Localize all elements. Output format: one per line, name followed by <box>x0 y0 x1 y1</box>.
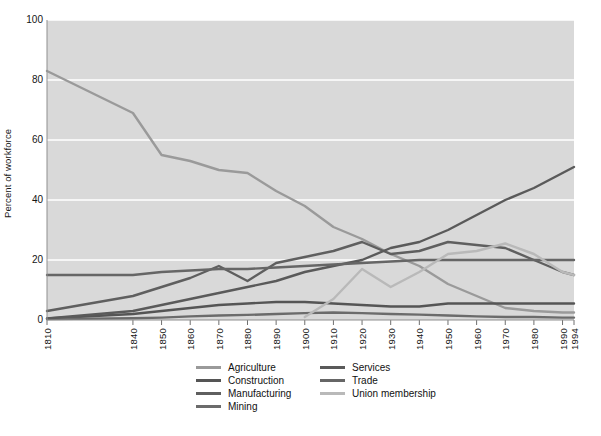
x-tick-label: 1980 <box>529 328 540 350</box>
chart-legend: AgricultureConstructionManufacturingMini… <box>196 361 516 423</box>
legend-column-right: ServicesTradeUnion membership <box>320 361 436 400</box>
legend-label: Services <box>352 361 390 374</box>
legend-item[interactable]: Trade <box>320 374 436 387</box>
legend-swatch-line-icon <box>196 405 221 408</box>
x-tick-label: 1810 <box>42 328 53 350</box>
x-tick-label: 1950 <box>443 328 454 350</box>
x-tick-label: 1940 <box>414 328 425 350</box>
legend-swatch-line-icon <box>196 366 221 369</box>
legend-item[interactable]: Manufacturing <box>196 387 291 400</box>
legend-label: Trade <box>352 374 378 387</box>
legend-label: Construction <box>228 374 284 387</box>
legend-label: Mining <box>228 400 257 413</box>
x-tick-label: 1870 <box>214 328 225 350</box>
x-tick-label: 1970 <box>500 328 511 350</box>
legend-swatch-line-icon <box>320 392 345 395</box>
legend-item[interactable]: Mining <box>196 400 291 413</box>
x-tick-label: 1994 <box>569 328 580 350</box>
x-tick-label: 1860 <box>185 328 196 350</box>
legend-label: Manufacturing <box>228 387 291 400</box>
legend-swatch-line-icon <box>196 379 221 382</box>
legend-column-left: AgricultureConstructionManufacturingMini… <box>196 361 291 413</box>
x-tick-label: 1930 <box>386 328 397 350</box>
legend-swatch-line-icon <box>320 366 345 369</box>
legend-swatch-line-icon <box>196 392 221 395</box>
x-tick-label: 1900 <box>300 328 311 350</box>
x-tick-label: 1840 <box>128 328 139 350</box>
legend-item[interactable]: Construction <box>196 374 291 387</box>
x-tick-label: 1990 <box>558 328 569 350</box>
legend-label: Agriculture <box>228 361 276 374</box>
legend-item[interactable]: Agriculture <box>196 361 291 374</box>
x-tick-label: 1890 <box>271 328 282 350</box>
x-tick-label: 1960 <box>472 328 483 350</box>
x-tick-label: 1880 <box>242 328 253 350</box>
x-tick-label: 1920 <box>357 328 368 350</box>
legend-item[interactable]: Services <box>320 361 436 374</box>
legend-label: Union membership <box>352 387 436 400</box>
x-tick-label: 1910 <box>328 328 339 350</box>
legend-swatch-line-icon <box>320 379 345 382</box>
chart-figure: Percent of workforce 020406080100 181018… <box>0 0 601 436</box>
legend-item[interactable]: Union membership <box>320 387 436 400</box>
x-tick-label: 1850 <box>157 328 168 350</box>
